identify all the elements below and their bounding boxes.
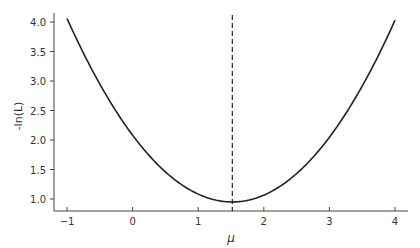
y-tick-label: 3.0 — [30, 76, 46, 87]
x-tick-label: 0 — [129, 216, 135, 227]
likelihood-curve — [67, 18, 395, 201]
y-tick-label: 2.5 — [30, 106, 46, 117]
x-axis-label: μ — [226, 231, 235, 245]
y-tick-label: 1.5 — [30, 165, 46, 176]
y-axis-label: -ln(L) — [12, 102, 25, 131]
x-tick-label: 1 — [195, 216, 201, 227]
x-tick-label: −1 — [60, 216, 75, 227]
x-tick-label: 2 — [261, 216, 267, 227]
x-tick-label: 4 — [392, 216, 398, 227]
y-tick-label: 4.0 — [30, 17, 46, 28]
y-tick-label: 1.0 — [30, 194, 46, 205]
y-tick-label: 2.0 — [30, 135, 46, 146]
chart: 1.01.52.02.53.03.54.0 −101234 -ln(L) μ — [0, 0, 420, 248]
y-tick-label: 3.5 — [30, 47, 46, 58]
x-tick-label: 3 — [326, 216, 332, 227]
